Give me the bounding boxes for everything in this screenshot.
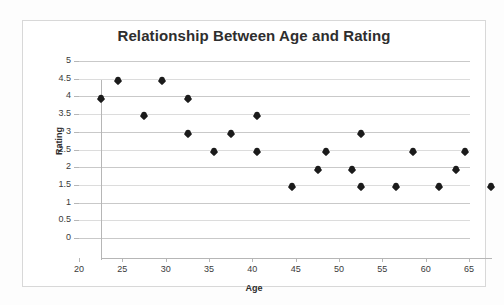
x-axis-tick-label: 65 bbox=[457, 264, 481, 274]
gridline bbox=[79, 79, 470, 80]
x-axis-tick bbox=[382, 258, 383, 262]
y-axis-tick-label: 1.5 bbox=[31, 179, 71, 189]
screenshot-root: Relationship Between Age and Rating 00.5… bbox=[0, 0, 504, 305]
x-axis-tick bbox=[469, 258, 470, 262]
data-point bbox=[435, 183, 443, 191]
y-axis-tick-label: 0.5 bbox=[31, 214, 71, 224]
data-point bbox=[183, 94, 191, 102]
y-axis-tick bbox=[74, 132, 79, 133]
y-axis-tick-label: 4.5 bbox=[31, 73, 71, 83]
y-axis-tick-label: 3 bbox=[31, 126, 71, 136]
x-axis-tick-label: 50 bbox=[327, 264, 351, 274]
x-axis-tick-label: 25 bbox=[110, 264, 134, 274]
data-point bbox=[487, 183, 495, 191]
data-point bbox=[357, 130, 365, 138]
y-axis-tick bbox=[74, 220, 79, 221]
data-point bbox=[322, 148, 330, 156]
x-axis-tick-label: 45 bbox=[284, 264, 308, 274]
y-axis-tick bbox=[74, 167, 79, 168]
data-point bbox=[409, 148, 417, 156]
y-axis-tick-label: 0 bbox=[31, 232, 71, 242]
y-axis-tick bbox=[74, 150, 79, 151]
y-axis-tick bbox=[74, 114, 79, 115]
x-axis-tick bbox=[122, 258, 123, 262]
y-axis-tick bbox=[74, 79, 79, 80]
x-axis-tick-label: 20 bbox=[67, 264, 91, 274]
data-point bbox=[452, 165, 460, 173]
data-point bbox=[97, 94, 105, 102]
x-axis-tick bbox=[166, 258, 167, 262]
y-axis-tick-label: 1 bbox=[31, 197, 71, 207]
y-axis-tick-label: 2 bbox=[31, 161, 71, 171]
data-point bbox=[253, 112, 261, 120]
data-point bbox=[227, 130, 235, 138]
data-point bbox=[157, 77, 165, 85]
y-axis-title: Rating bbox=[54, 127, 64, 155]
data-point bbox=[357, 183, 365, 191]
y-axis-tick bbox=[74, 203, 79, 204]
data-point bbox=[461, 148, 469, 156]
x-axis-tick bbox=[209, 258, 210, 262]
y-axis-tick bbox=[74, 61, 79, 62]
y-axis-tick bbox=[74, 185, 79, 186]
x-axis-tick bbox=[296, 258, 297, 262]
x-axis-tick bbox=[252, 258, 253, 262]
x-axis-tick-label: 60 bbox=[414, 264, 438, 274]
x-axis-tick-label: 35 bbox=[197, 264, 221, 274]
chart-frame: Relationship Between Age and Rating 00.5… bbox=[22, 20, 486, 287]
plot-area bbox=[101, 81, 491, 258]
x-axis-tick-label: 55 bbox=[370, 264, 394, 274]
x-axis-tick-label: 40 bbox=[240, 264, 264, 274]
y-axis-tick-label: 3.5 bbox=[31, 108, 71, 118]
y-axis-tick bbox=[74, 96, 79, 97]
y-axis-tick-label: 4 bbox=[31, 90, 71, 100]
y-axis-tick-label: 5 bbox=[31, 55, 71, 65]
x-axis-title: Age bbox=[23, 283, 485, 293]
data-point bbox=[287, 183, 295, 191]
data-point bbox=[348, 165, 356, 173]
x-axis-tick bbox=[339, 258, 340, 262]
data-point bbox=[391, 183, 399, 191]
x-axis-tick-label: 30 bbox=[154, 264, 178, 274]
gridline bbox=[79, 61, 470, 62]
y-axis-tick-label: 2.5 bbox=[31, 144, 71, 154]
y-axis-tick bbox=[74, 238, 79, 239]
x-axis-tick bbox=[79, 258, 80, 262]
data-point bbox=[140, 112, 148, 120]
data-point bbox=[183, 130, 191, 138]
data-point bbox=[253, 148, 261, 156]
data-point bbox=[209, 148, 217, 156]
chart-title: Relationship Between Age and Rating bbox=[23, 27, 485, 44]
x-axis-tick bbox=[426, 258, 427, 262]
data-point bbox=[313, 165, 321, 173]
